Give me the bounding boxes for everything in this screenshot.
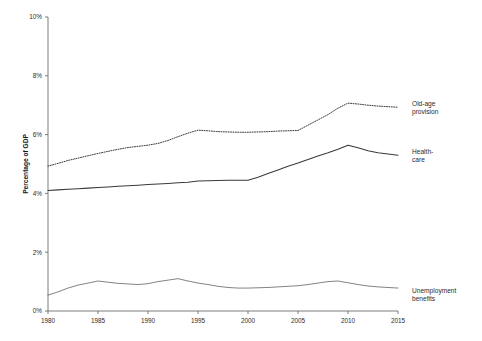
chart-figure: 0%2%4%6%8%10%198019851990199520002005201…	[0, 0, 482, 341]
x-tick-label: 1985	[91, 317, 106, 324]
series-line-1	[48, 145, 398, 190]
series-label-1-line1: Health-	[412, 148, 433, 155]
y-tick-label: 0%	[33, 307, 43, 314]
x-tick-label: 1990	[141, 317, 156, 324]
x-tick-label: 2005	[291, 317, 306, 324]
x-tick-label: 2015	[391, 317, 406, 324]
series-line-2	[48, 279, 398, 295]
series-label-0-line1: Old-age	[412, 100, 436, 108]
series-label-0-line2: provision	[412, 108, 439, 116]
series-label-2-line2: benefits	[412, 295, 436, 302]
line-chart-svg: 0%2%4%6%8%10%198019851990199520002005201…	[0, 0, 482, 341]
y-tick-label: 6%	[33, 131, 43, 138]
y-axis-title: Percentage of GDP	[22, 134, 30, 194]
x-tick-label: 2010	[341, 317, 356, 324]
y-tick-label: 4%	[33, 190, 43, 197]
series-label-2-line1: Unemployment	[412, 287, 457, 295]
x-tick-label: 2000	[241, 317, 256, 324]
series-line-0	[48, 103, 398, 166]
series-label-1-line2: care	[412, 156, 425, 163]
y-tick-label: 8%	[33, 72, 43, 79]
y-tick-label: 2%	[33, 249, 43, 256]
y-tick-label: 10%	[29, 13, 42, 20]
x-tick-label: 1980	[41, 317, 56, 324]
x-tick-label: 1995	[191, 317, 206, 324]
